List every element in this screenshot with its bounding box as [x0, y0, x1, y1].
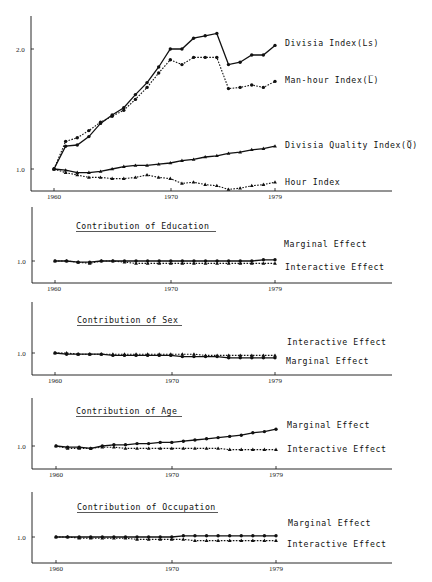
circle-marker-icon: [182, 534, 185, 537]
panel-age: 1.0 1960 1970 1979 Contribution of Age M…: [17, 398, 392, 479]
panel-title-education: Contribution of Education: [76, 221, 209, 231]
legend-interactive-effect: Interactive Effect: [285, 262, 385, 272]
x-tick-label-1979: 1979: [268, 377, 283, 385]
circle-marker-icon: [193, 534, 196, 537]
circle-marker-icon: [205, 534, 208, 537]
circle-marker-icon: [250, 53, 253, 56]
circle-marker-icon: [122, 109, 125, 112]
circle-marker-icon: [124, 443, 127, 446]
x-tick-label-1979: 1979: [268, 193, 283, 201]
circle-marker-icon: [273, 356, 276, 359]
triangle-marker-icon: [216, 446, 220, 449]
circle-marker-icon: [123, 354, 126, 357]
circle-marker-icon: [169, 58, 172, 61]
plot-area: [54, 534, 278, 542]
triangle-marker-icon: [205, 446, 209, 449]
series-line-0: [56, 536, 276, 537]
triangle-marker-icon: [157, 175, 161, 178]
plot-area: [54, 428, 278, 451]
plot-area: [53, 258, 277, 265]
x-tick-label-1970: 1970: [165, 377, 180, 385]
panel-education: 1.0 1960 1970 1979 Contribution of Educa…: [17, 207, 392, 293]
circle-marker-icon: [157, 71, 160, 74]
triangle-marker-icon: [135, 446, 139, 449]
circle-marker-icon: [273, 80, 276, 83]
circle-marker-icon: [157, 65, 160, 68]
circle-marker-icon: [228, 534, 231, 537]
x-tick-label-1970: 1970: [164, 193, 179, 201]
panel-title-age: Contribution of Age: [76, 406, 177, 416]
circle-marker-icon: [262, 258, 265, 261]
circle-marker-icon: [180, 47, 183, 50]
circle-marker-icon: [134, 98, 137, 101]
x-tick-label-1960: 1960: [49, 565, 64, 573]
circle-marker-icon: [135, 442, 138, 445]
x-tick-label-1960: 1960: [47, 193, 62, 201]
figure-canvas: 2.0 1.0 1960 1970 1979 Divisia Index(Ls)…: [0, 0, 432, 582]
circle-marker-icon: [159, 441, 162, 444]
circle-marker-icon: [263, 534, 266, 537]
x-tick-label-1960: 1960: [49, 471, 64, 479]
circle-marker-icon: [250, 356, 253, 359]
circle-marker-icon: [192, 56, 195, 59]
triangle-marker-icon: [238, 186, 242, 189]
circle-marker-icon: [240, 434, 243, 437]
circle-marker-icon: [238, 61, 241, 64]
x-tick-label-1979: 1979: [268, 285, 283, 293]
legend-marginal-effect: Marginal Effect: [284, 239, 367, 249]
circle-marker-icon: [180, 63, 183, 66]
circle-marker-icon: [262, 356, 265, 359]
y-tick-label-1: 1.0: [17, 258, 26, 266]
circle-marker-icon: [87, 129, 90, 132]
triangle-marker-icon: [205, 539, 209, 542]
triangle-marker-icon: [145, 173, 149, 176]
circle-marker-icon: [100, 353, 103, 356]
circle-marker-icon: [250, 83, 253, 86]
circle-marker-icon: [204, 34, 207, 37]
circle-marker-icon: [99, 121, 102, 124]
series-line-0: [55, 260, 275, 262]
circle-marker-icon: [251, 534, 254, 537]
circle-marker-icon: [134, 354, 137, 357]
x-tick-label-1970: 1970: [165, 471, 180, 479]
circle-marker-icon: [169, 47, 172, 50]
plot-area: [53, 351, 277, 359]
x-tick-label-1970: 1970: [165, 565, 180, 573]
y-tick-label-1: 1.0: [16, 166, 25, 174]
triangle-marker-icon: [124, 446, 128, 449]
legend-marginal-effect: Marginal Effect: [287, 420, 370, 430]
triangle-marker-icon: [193, 446, 197, 449]
y-tick-label-1: 1.0: [17, 443, 26, 451]
circle-marker-icon: [204, 56, 207, 59]
circle-marker-icon: [262, 53, 265, 56]
x-tick-label-1970: 1970: [164, 285, 179, 293]
circle-marker-icon: [227, 87, 230, 90]
circle-marker-icon: [193, 438, 196, 441]
circle-marker-icon: [263, 430, 266, 433]
circle-marker-icon: [64, 145, 67, 148]
triangle-marker-icon: [261, 183, 265, 186]
legend-man-hour-index: Man-hour Index(L̅): [285, 75, 379, 85]
circle-marker-icon: [76, 143, 79, 146]
triangle-marker-icon: [274, 539, 278, 542]
triangle-marker-icon: [250, 184, 254, 187]
circle-marker-icon: [273, 258, 276, 261]
panel-sex: 1.0 1960 1970 1979 Contribution of Sex I…: [17, 302, 392, 385]
circle-marker-icon: [251, 431, 254, 434]
circle-marker-icon: [87, 135, 90, 138]
series-line-2: [54, 146, 275, 172]
circle-marker-icon: [204, 355, 207, 358]
circle-marker-icon: [205, 437, 208, 440]
series-line-0: [56, 429, 276, 448]
x-tick-label-1979: 1979: [269, 565, 284, 573]
legend-divisia-quality-index: Divisia Quality Index(Q̅): [285, 140, 418, 150]
circle-marker-icon: [192, 355, 195, 358]
legend-interactive-effect: Interactive Effect: [287, 444, 387, 454]
x-tick-label-1960: 1960: [47, 285, 62, 293]
circle-marker-icon: [238, 86, 241, 89]
circle-marker-icon: [145, 81, 148, 84]
circle-marker-icon: [228, 435, 231, 438]
panel-occupation: 1.0 1960 1970 1979 Contribution of Occup…: [17, 492, 392, 573]
triangle-marker-icon: [168, 177, 172, 180]
legend-divisia-index: Divisia Index(Ls): [285, 38, 379, 48]
